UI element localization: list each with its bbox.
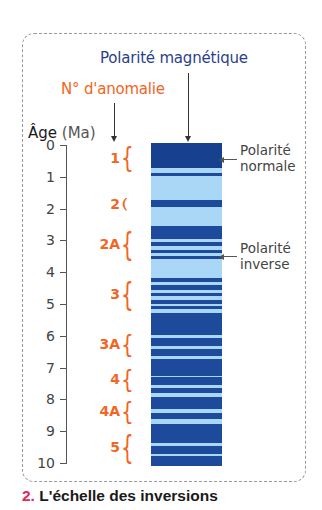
anomaly-title: N° d'anomalie xyxy=(61,80,165,98)
anomaly-brace-icon: { xyxy=(121,431,134,463)
axis-tick xyxy=(60,240,67,241)
normal-polarity-band xyxy=(151,173,222,176)
anomaly-label: 2 xyxy=(86,196,120,212)
caption-text: L'échelle des inversions xyxy=(39,487,218,504)
anomaly-label: 4 xyxy=(86,371,120,387)
anomaly-brace-icon: { xyxy=(121,366,134,391)
normal-polarity-band xyxy=(151,377,222,385)
axis-tick-label: 2 xyxy=(25,202,55,216)
anomaly-brace-icon: { xyxy=(121,398,134,423)
anomaly-brace-icon: { xyxy=(121,278,134,310)
axis-tick-label: 4 xyxy=(25,265,55,279)
normal-polarity-band xyxy=(151,446,222,454)
axis-tick xyxy=(60,272,67,273)
axis-tick xyxy=(60,368,67,369)
normal-polarity-band xyxy=(151,456,222,466)
normal-polarity-band xyxy=(151,349,222,356)
anomaly-label: 2A xyxy=(86,236,120,252)
anomaly-label: 5 xyxy=(86,439,120,455)
axis-tick-label: 0 xyxy=(25,138,55,152)
anomaly-arrow-icon xyxy=(114,103,115,137)
axis-tick xyxy=(60,431,67,432)
callout-normal-line1: Polarité xyxy=(240,142,296,158)
anomaly-label: 4A xyxy=(86,403,120,419)
normal-polarity-band xyxy=(151,306,222,309)
normal-polarity-band xyxy=(151,242,222,247)
normal-polarity-band xyxy=(151,293,222,296)
age-axis-unit: (Ma) xyxy=(62,124,96,142)
normal-polarity-band xyxy=(151,300,222,304)
figure-caption: 2. L'échelle des inversions xyxy=(22,487,218,505)
normal-polarity-band xyxy=(151,397,222,410)
normal-polarity-band xyxy=(151,143,222,168)
axis-tick xyxy=(60,145,67,146)
normal-polarity-band xyxy=(151,285,222,290)
polarity-arrow-icon xyxy=(188,73,189,137)
axis-tick-label: 8 xyxy=(25,392,55,406)
callout-normal: Polarité normale xyxy=(240,142,296,174)
axis-tick xyxy=(60,336,67,337)
anomaly-label: 3A xyxy=(86,336,120,352)
axis-tick-label: 10 xyxy=(25,456,55,470)
normal-polarity-band xyxy=(151,359,222,375)
normal-polarity-band xyxy=(151,388,222,393)
axis-tick-label: 9 xyxy=(25,424,55,438)
axis-tick-label: 5 xyxy=(25,297,55,311)
axis-tick-label: 1 xyxy=(25,170,55,184)
normal-polarity-band xyxy=(151,226,222,239)
normal-polarity-band xyxy=(151,278,222,282)
anomaly-label: 3 xyxy=(86,286,120,302)
normal-polarity-band xyxy=(151,256,222,259)
normal-polarity-band xyxy=(151,338,222,346)
inverse-pointer-icon xyxy=(223,256,237,257)
axis-tick-label: 7 xyxy=(25,361,55,375)
anomaly-brace-icon: { xyxy=(121,144,134,172)
normal-polarity-band xyxy=(151,200,222,206)
callout-inverse-line1: Polarité xyxy=(240,240,291,256)
normal-polarity-band xyxy=(151,424,222,443)
callout-inverse-line2: inverse xyxy=(240,256,291,272)
anomaly-label: 1 xyxy=(86,150,120,166)
anomaly-brace-icon: { xyxy=(121,228,134,260)
axis-tick-label: 3 xyxy=(25,233,55,247)
normal-pointer-icon xyxy=(223,159,237,160)
axis-tick xyxy=(60,399,67,400)
axis-tick xyxy=(60,209,67,210)
axis-tick xyxy=(60,304,67,305)
anomaly-brace-icon: ( xyxy=(121,197,129,211)
callout-inverse: Polarité inverse xyxy=(240,240,291,272)
axis-tick-label: 6 xyxy=(25,329,55,343)
axis-tick xyxy=(60,177,67,178)
polarity-title: Polarité magnétique xyxy=(100,49,248,67)
anomaly-brace-icon: { xyxy=(121,331,134,356)
axis-tick xyxy=(60,463,67,464)
normal-polarity-band xyxy=(151,413,222,419)
callout-normal-line2: normale xyxy=(240,158,296,174)
polarity-column xyxy=(151,143,222,466)
normal-polarity-band xyxy=(151,313,222,336)
normal-polarity-band xyxy=(151,250,222,253)
caption-number: 2. xyxy=(22,487,35,504)
